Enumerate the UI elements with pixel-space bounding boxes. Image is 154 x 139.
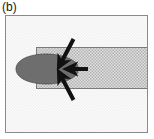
figure-panel-b: (b) — [0, 0, 154, 139]
figure-canvas — [0, 0, 154, 139]
droplet — [16, 54, 78, 84]
